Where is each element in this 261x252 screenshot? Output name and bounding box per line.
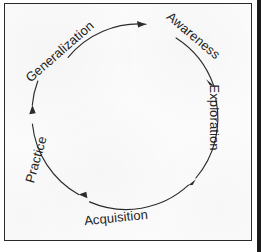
arrow-to-practice-icon [79, 192, 88, 199]
scan-edge-right [257, 0, 261, 252]
figure-frame: Awareness Exploration Acquisition Practi… [4, 3, 252, 241]
arrow-to-generalization-icon [29, 105, 36, 114]
arc-upper-left [32, 81, 38, 105]
arc-bottom-right [90, 185, 189, 209]
stage-label-exploration: Exploration [207, 84, 222, 150]
arrow-to-acquisition-icon [188, 179, 196, 185]
figure-root: Awareness Exploration Acquisition Practi… [0, 0, 261, 252]
arrow-to-awareness-icon [137, 21, 146, 28]
